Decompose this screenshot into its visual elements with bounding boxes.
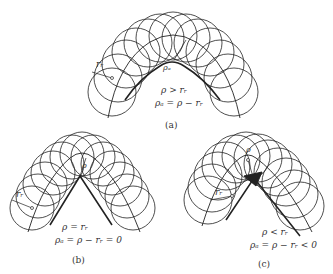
panel-b-equation: ρₐ = ρ − rᵣ = 0: [55, 236, 122, 245]
panel-b-caption: (b): [72, 256, 85, 265]
panel-a-rho-label: ρₐ: [163, 64, 171, 72]
panel-a-caption: (a): [165, 121, 177, 130]
panel-b-roller-radius-label: rᵣ: [16, 190, 23, 199]
panel-b-rho-label: ρ: [82, 162, 87, 170]
panel-c-condition: ρ < rᵣ: [262, 228, 288, 237]
panel-a-equation: ρₐ = ρ − rᵣ: [155, 99, 203, 108]
panel-c-roller-radius-label: rᵣ: [215, 188, 222, 197]
panel-c-caption: (c): [258, 260, 270, 269]
panel-c-equation: ρₐ = ρ − rᵣ < 0: [250, 241, 317, 250]
panel-b-roller-radius-arrow: [12, 200, 32, 208]
panel-c-rho-label: ρ: [246, 146, 251, 154]
panel-a-condition: ρ > rᵣ: [161, 86, 187, 95]
panel-b-condition: ρ = rᵣ: [62, 223, 88, 232]
panel-a-roller-radius-label: rᵣ: [96, 60, 103, 69]
